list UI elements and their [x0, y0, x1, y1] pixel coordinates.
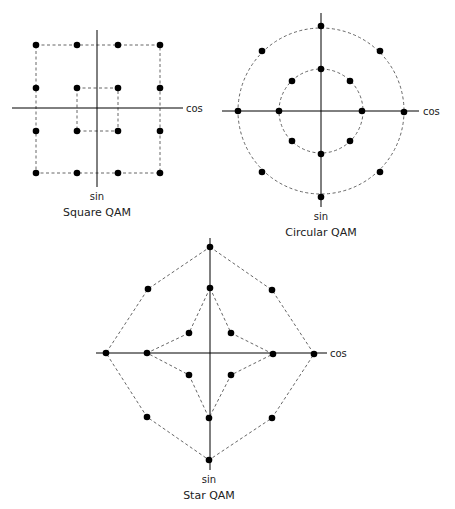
constellation-point [74, 85, 81, 92]
constellation-point [347, 78, 354, 85]
constellation-point [311, 351, 318, 358]
constellation-point [269, 287, 276, 294]
constellation-point [228, 372, 235, 379]
constellation-point [377, 169, 384, 176]
constellation-point [270, 351, 277, 358]
constellation-point [157, 85, 164, 92]
constellation-point [269, 415, 276, 422]
cos-axis-label: cos [423, 106, 440, 117]
constellation-point [289, 138, 296, 145]
constellation-point [144, 414, 151, 421]
square-qam-diagram: cossinSquare QAM [12, 30, 203, 219]
outer-dashed-outline [36, 45, 160, 173]
constellation-point [318, 151, 325, 158]
circular-qam-diagram: cossinCircular QAM [222, 13, 440, 239]
constellation-point [377, 48, 384, 55]
cos-axis-label: cos [330, 348, 347, 359]
constellation-point [103, 350, 110, 357]
diagram-title: Circular QAM [285, 226, 357, 239]
constellation-point [186, 330, 193, 337]
constellation-point [259, 48, 266, 55]
constellation-point [157, 170, 164, 177]
constellation-point [115, 42, 122, 49]
sin-axis-label: sin [314, 211, 328, 222]
constellation-point [359, 108, 366, 115]
constellation-point [235, 108, 242, 115]
constellation-point [289, 78, 296, 85]
constellation-point [347, 138, 354, 145]
constellation-point [74, 42, 81, 49]
diagram-title: Star QAM [183, 489, 235, 502]
constellation-point [318, 194, 325, 201]
constellation-point [186, 372, 193, 379]
constellation-point [207, 244, 214, 251]
constellation-point [228, 330, 235, 337]
star-qam-diagram: cossinStar QAM [96, 238, 347, 502]
constellation-point [74, 170, 81, 177]
qam-constellation-diagrams: cossinSquare QAM cossinCircular QAM coss… [0, 0, 455, 509]
constellation-point [318, 66, 325, 73]
constellation-point [259, 169, 266, 176]
constellation-point [33, 128, 40, 135]
constellation-point [401, 109, 408, 116]
constellation-point [206, 457, 213, 464]
sin-axis-label: sin [90, 191, 104, 202]
sin-axis-label: sin [202, 474, 216, 485]
constellation-point [157, 128, 164, 135]
constellation-point [33, 170, 40, 177]
cos-axis-label: cos [186, 103, 203, 114]
constellation-point [157, 42, 164, 49]
constellation-point [115, 128, 122, 135]
constellation-point [74, 128, 81, 135]
constellation-point [115, 85, 122, 92]
constellation-point [206, 415, 213, 422]
constellation-point [33, 85, 40, 92]
constellation-point [207, 285, 214, 292]
constellation-point [145, 286, 152, 293]
constellation-point [318, 23, 325, 30]
diagram-title: Square QAM [63, 206, 131, 219]
constellation-point [33, 42, 40, 49]
constellation-point [115, 170, 122, 177]
constellation-point [144, 350, 151, 357]
constellation-point [276, 108, 283, 115]
